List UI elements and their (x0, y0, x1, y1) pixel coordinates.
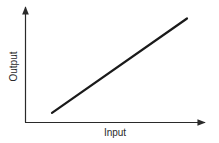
x-axis-label: Input (104, 127, 126, 138)
y-axis-label: Output (8, 51, 19, 81)
chart: Input Output (0, 0, 219, 143)
data-line (52, 19, 187, 113)
